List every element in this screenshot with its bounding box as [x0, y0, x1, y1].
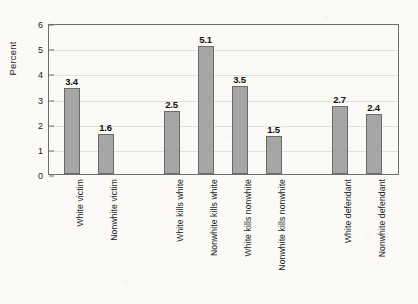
y-tick-label: 5: [38, 45, 49, 55]
x-axis-label: White defendant: [343, 179, 353, 243]
bar: [98, 134, 114, 174]
gridline: [49, 50, 398, 51]
chart-page: Percent 0123456 3.41.62.55.13.51.52.72.4…: [0, 0, 418, 304]
plot-area: 0123456 3.41.62.55.13.51.52.72.4: [48, 24, 399, 175]
y-tick-label: 0: [38, 171, 49, 181]
y-tick-mark: [49, 100, 54, 101]
bar-value-label: 2.4: [367, 102, 380, 113]
y-tick-mark: [49, 50, 54, 51]
y-tick-label: 3: [38, 96, 49, 106]
y-tick-label: 1: [38, 146, 49, 156]
x-axis-label: White victim: [75, 179, 85, 227]
y-tick-label: 4: [38, 70, 49, 80]
bar: [232, 86, 248, 174]
bar-value-label: 1.5: [267, 124, 280, 135]
gridline: [49, 75, 398, 76]
bar: [332, 106, 348, 174]
bar: [64, 88, 80, 174]
x-axis-label: White kills nonwhite: [243, 179, 253, 256]
x-axis-label: White kills white: [175, 179, 185, 242]
x-axis-label: Nonwhite victim: [109, 179, 119, 241]
y-tick-mark: [49, 75, 54, 76]
bar-value-label: 2.5: [165, 99, 178, 110]
y-tick-label: 6: [38, 20, 49, 30]
y-tick-mark: [49, 125, 54, 126]
bar-value-label: 2.7: [333, 94, 346, 105]
y-tick-mark: [49, 150, 54, 151]
bar: [198, 46, 214, 174]
bar-value-label: 5.1: [199, 34, 212, 45]
bar: [266, 136, 282, 174]
bar-value-label: 3.4: [65, 76, 78, 87]
y-tick-mark: [49, 25, 54, 26]
y-axis-title: Percent: [7, 9, 18, 109]
bar-value-label: 3.5: [233, 74, 246, 85]
y-tick-mark: [49, 176, 54, 177]
bar: [164, 111, 180, 174]
bar: [366, 114, 382, 174]
x-axis-label: Nonwhite kills nonwhite: [277, 179, 287, 271]
x-axis-label: Nonwhite kills white: [209, 179, 219, 256]
bar-value-label: 1.6: [99, 122, 112, 133]
y-tick-label: 2: [38, 121, 49, 131]
x-axis-label: Nonwhite defendant: [377, 179, 387, 257]
